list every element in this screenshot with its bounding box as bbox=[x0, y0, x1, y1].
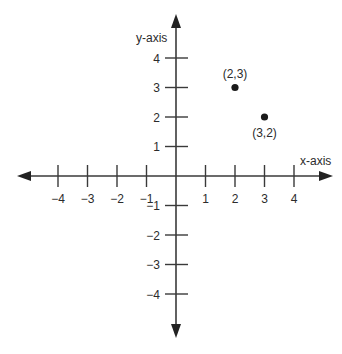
y-axis-down-arrow-icon bbox=[171, 324, 181, 338]
x-tick-label: 3 bbox=[261, 192, 268, 206]
x-tick-label: −4 bbox=[51, 192, 65, 206]
data-point-label: (3,2) bbox=[252, 126, 277, 140]
y-tick-label: 4 bbox=[153, 52, 160, 66]
x-tick-label: −3 bbox=[81, 192, 95, 206]
y-tick-label: −1 bbox=[146, 199, 160, 213]
x-tick-label: 1 bbox=[202, 192, 209, 206]
data-points: (2,3)(3,2) bbox=[223, 67, 277, 141]
x-axis-label: x-axis bbox=[300, 154, 331, 168]
y-tick-label: 2 bbox=[153, 111, 160, 125]
y-tick-label: −3 bbox=[146, 258, 160, 272]
y-axis-up-arrow-icon bbox=[171, 14, 181, 28]
y-axis-label: y-axis bbox=[136, 31, 167, 45]
x-tick-label: 4 bbox=[291, 192, 298, 206]
data-point bbox=[231, 84, 238, 91]
x-tick-label: 2 bbox=[232, 192, 239, 206]
y-tick-label: 1 bbox=[153, 140, 160, 154]
y-tick-label: −2 bbox=[146, 229, 160, 243]
y-tick-label: 3 bbox=[153, 81, 160, 95]
x-tick-label: −2 bbox=[110, 192, 124, 206]
x-axis-right-arrow-icon bbox=[319, 171, 333, 181]
data-point bbox=[261, 113, 268, 120]
x-axis-left-arrow-icon bbox=[17, 171, 31, 181]
data-point-label: (2,3) bbox=[223, 67, 248, 81]
y-tick-label: −4 bbox=[146, 288, 160, 302]
coordinate-plane: −4−3−2−11234−4−3−2−11234 y-axis x-axis (… bbox=[0, 0, 342, 354]
